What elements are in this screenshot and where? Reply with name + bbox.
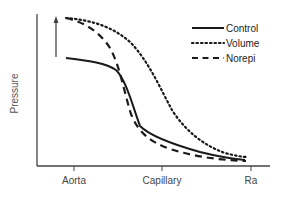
legend-item-volume: Volume (190, 36, 259, 51)
x-tick-label-ra: Ra (245, 175, 258, 186)
legend-item-control: Control (190, 21, 259, 36)
legend-item-norepi: Norepi (190, 51, 259, 66)
legend-label-norepi: Norepi (226, 53, 255, 64)
x-tick-label-aorta: Aorta (62, 175, 86, 186)
legend-label-volume: Volume (226, 38, 259, 49)
series-control-line (66, 58, 245, 160)
legend: Control Volume Norepi (190, 21, 259, 66)
y-axis-label: Pressure (9, 74, 20, 114)
pressure-chart: Pressure Aorta Capillary Ra Control Volu… (0, 0, 283, 199)
legend-label-control: Control (226, 23, 258, 34)
x-tick-label-capillary: Capillary (143, 175, 182, 186)
arrow-up-icon (54, 16, 59, 57)
